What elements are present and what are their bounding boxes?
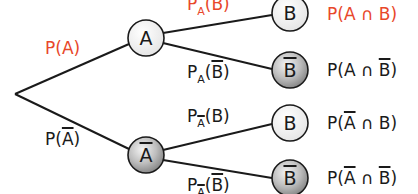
label-part: B [379, 60, 391, 80]
node-not-B: B [272, 160, 308, 194]
node-B: B [272, 0, 308, 31]
label-part: A [62, 38, 74, 58]
label-part: P(A ∩ [327, 60, 379, 80]
label-part: B [379, 168, 391, 188]
label-part: P( [45, 38, 62, 58]
label-part: A [344, 113, 356, 133]
edge-label-Pnot-A-not-B: PA(B) [187, 175, 230, 194]
label-part: ∩ [356, 168, 379, 188]
label-part: A [197, 73, 205, 86]
edge-label-PA-not-B: PA(B) [187, 62, 230, 85]
label-part: P( [327, 168, 344, 188]
probability-tree-diagram: A A B B B B P(A) P(A) PA(B) PA(B) PA(B) … [0, 0, 418, 194]
label-part: A [62, 129, 74, 149]
outcome-not-A-and-not-B: P(A ∩ B) [327, 168, 397, 188]
label-part: P(A ∩ B) [327, 4, 397, 24]
label-part: ) [223, 62, 230, 82]
label-part: P [187, 175, 197, 194]
label-part: P [187, 106, 197, 126]
label-part: P( [45, 129, 62, 149]
label-part: ∩ B) [356, 113, 398, 133]
label-part: B [211, 175, 223, 194]
label-part: P( [327, 113, 344, 133]
tree-branches [0, 0, 418, 194]
label-part: P [187, 62, 197, 82]
label-part: B [211, 62, 223, 82]
edge-label-PA-B: PA(B) [187, 0, 230, 17]
node-not-A: A [128, 137, 164, 173]
edge-label-P-A: P(A) [45, 38, 80, 58]
outcome-A-and-not-B: P(A ∩ B) [327, 60, 397, 80]
label-part: P [187, 0, 197, 14]
label-part: A [197, 5, 205, 18]
label-part: ) [223, 175, 230, 194]
label-part: (B) [205, 106, 230, 126]
node-A: A [128, 20, 164, 56]
node-B: B [272, 105, 308, 141]
edge-label-Pnot-A-B: PA(B) [187, 106, 230, 129]
outcome-not-A-and-B: P(A ∩ B) [327, 113, 397, 133]
label-part: A [197, 117, 205, 130]
edge-label-P-not-A: P(A) [45, 129, 80, 149]
label-part: A [344, 168, 356, 188]
label-part: A [197, 186, 205, 194]
label-part: ) [390, 60, 397, 80]
node-not-B: B [272, 52, 308, 88]
label-part: ) [74, 129, 81, 149]
outcome-A-and-B: P(A ∩ B) [327, 4, 397, 24]
label-part: (B) [205, 0, 230, 14]
label-part: ) [390, 168, 397, 188]
label-part: ) [74, 38, 81, 58]
